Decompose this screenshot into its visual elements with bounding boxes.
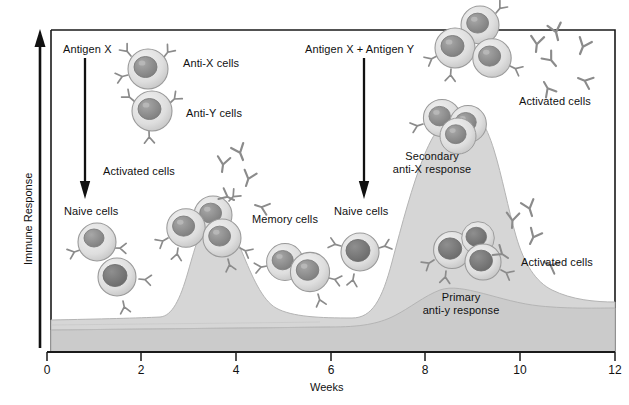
x-tick-4: 4 <box>224 363 248 377</box>
x-axis-title: Weeks <box>310 381 343 393</box>
memory-cells-cluster <box>254 244 342 307</box>
immune-response-diagram: Antigen X Antigen X + Antigen Y Anti-X c… <box>0 0 629 405</box>
label-primary-anti-y-response: Primary anti-y response <box>408 291 514 317</box>
x-tick-10: 10 <box>508 363 532 377</box>
primary-response-line-1: Primary <box>408 291 514 304</box>
primary-response-line-2: anti-y response <box>408 304 514 317</box>
x-tick-0: 0 <box>35 363 59 377</box>
y-axis-title: Immune Response <box>22 173 34 265</box>
free-antibodies-top-right <box>530 23 594 98</box>
label-naive-cells-left: Naive cells <box>64 205 118 218</box>
activated-cells-secondary-top <box>424 1 523 82</box>
x-tick-12: 12 <box>603 363 627 377</box>
label-secondary-anti-x-response: Secondary anti-X response <box>379 150 485 176</box>
anti-y-cell-icon <box>122 89 183 143</box>
secondary-response-line-2: anti-X response <box>379 163 485 176</box>
label-naive-cells-mid: Naive cells <box>334 205 388 218</box>
diagram-graphics <box>0 0 629 405</box>
naive-cells-left <box>67 223 151 314</box>
label-anti-x-cells: Anti-X cells <box>183 57 239 70</box>
x-tick-8: 8 <box>413 363 437 377</box>
y-axis-arrow <box>35 29 46 348</box>
antigen-xy-arrow <box>359 58 369 199</box>
antigen-x-arrow <box>80 58 90 199</box>
label-antigen-x: Antigen X <box>63 43 112 56</box>
anti-x-cell-icon <box>115 44 175 89</box>
label-activated-cells-top-left: Activated cells <box>103 165 175 178</box>
x-axis <box>47 352 615 361</box>
x-tick-6: 6 <box>319 363 343 377</box>
label-anti-y-cells: Anti-Y cells <box>186 107 242 120</box>
label-memory-cells: Memory cells <box>252 213 318 226</box>
label-activated-cells-right: Activated cells <box>521 256 593 269</box>
label-activated-cells-top-right: Activated cells <box>519 95 591 108</box>
label-antigen-x-plus-y: Antigen X + Antigen Y <box>305 43 414 56</box>
x-tick-2: 2 <box>129 363 153 377</box>
secondary-response-line-1: Secondary <box>379 150 485 163</box>
